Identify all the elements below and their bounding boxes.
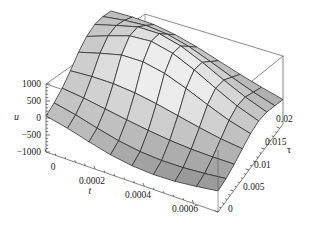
y-axis-title: τ bbox=[287, 144, 291, 155]
y-minor-tick bbox=[250, 165, 252, 166]
x-tick-label-1: 0.0002 bbox=[79, 176, 105, 186]
y-minor-tick bbox=[225, 199, 227, 200]
y-minor-tick bbox=[228, 195, 230, 196]
plot-canvas: 1000 500 0 −500 −1000 u 0 0.0002 0.0004 … bbox=[0, 0, 318, 229]
y-tick-label-2: 0.01 bbox=[254, 160, 271, 170]
y-minor-tick bbox=[256, 157, 258, 158]
y-tick-2 bbox=[246, 169, 249, 170]
y-minor-tick bbox=[235, 186, 237, 187]
z-tick-label-1: 500 bbox=[27, 96, 42, 106]
y-tick-4 bbox=[277, 127, 280, 128]
z-tick-label-0: 1000 bbox=[22, 79, 41, 89]
x-tick-label-3: 0.0006 bbox=[172, 204, 198, 214]
y-minor-tick bbox=[219, 207, 221, 208]
y-minor-tick bbox=[238, 182, 240, 183]
y-minor-tick bbox=[244, 174, 246, 175]
x-tick-label-2: 0.0004 bbox=[125, 190, 151, 200]
y-tick-1 bbox=[230, 190, 233, 191]
y-minor-tick bbox=[259, 153, 261, 154]
z-tick-label-3: −500 bbox=[21, 130, 41, 140]
x-tick-label-0: 0 bbox=[51, 162, 56, 172]
y-tick-label-3: 0.015 bbox=[265, 137, 287, 147]
y-tick-label-0: 0 bbox=[228, 204, 233, 214]
surface-mesh bbox=[46, 11, 283, 191]
y-minor-tick bbox=[275, 132, 277, 133]
y-tick-3 bbox=[261, 148, 264, 149]
y-tick-0 bbox=[215, 211, 218, 212]
surface-plot-figure: 1000 500 0 −500 −1000 u 0 0.0002 0.0004 … bbox=[0, 0, 318, 229]
z-tick-label-2: 0 bbox=[36, 113, 41, 123]
z-tick-label-4: −1000 bbox=[17, 147, 42, 157]
y-tick-label-4: 0.02 bbox=[276, 114, 293, 124]
y-minor-tick bbox=[222, 203, 224, 204]
x-axis-title: t bbox=[89, 185, 92, 196]
y-minor-tick bbox=[241, 178, 243, 179]
y-tick-label-1: 0.005 bbox=[243, 182, 265, 192]
z-axis-ticks bbox=[46, 84, 50, 152]
z-axis-title: u bbox=[14, 111, 19, 122]
